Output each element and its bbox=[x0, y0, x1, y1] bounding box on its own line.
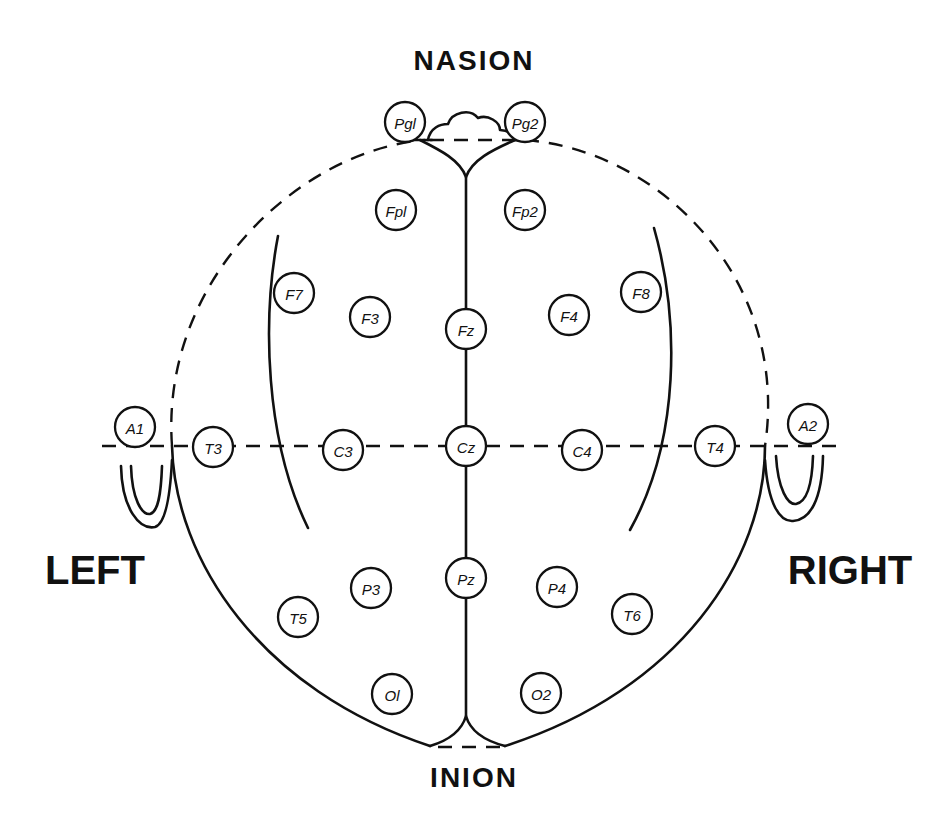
electrode-f4: F4 bbox=[549, 295, 589, 335]
inion-label: INION bbox=[430, 762, 518, 793]
electrode-label: T3 bbox=[204, 440, 222, 457]
electrode-label: C4 bbox=[572, 443, 591, 460]
electrode-f7: F7 bbox=[274, 273, 314, 313]
electrode-t4: T4 bbox=[695, 426, 735, 466]
electrode-a1: A1 bbox=[115, 407, 155, 447]
nasion-label: NASION bbox=[414, 45, 535, 76]
right-ear-inner bbox=[776, 456, 813, 504]
electrode-label: Pg2 bbox=[512, 115, 539, 132]
electrode-t3: T3 bbox=[193, 427, 233, 467]
left-ear-inner bbox=[131, 466, 162, 514]
electrode-c3: C3 bbox=[323, 430, 363, 470]
electrode-label: Fp2 bbox=[512, 203, 539, 220]
electrode-label: T4 bbox=[706, 439, 724, 456]
electrode-label: Cz bbox=[457, 439, 476, 456]
electrode-t6: T6 bbox=[612, 594, 652, 634]
electrode-label: Pz bbox=[457, 571, 475, 588]
electrode-fz: Fz bbox=[446, 309, 486, 349]
left-ear-outer bbox=[121, 460, 172, 527]
upper-head-outline bbox=[171, 140, 768, 446]
electrode-f3: F3 bbox=[350, 297, 390, 337]
electrode-label: Fpl bbox=[386, 203, 408, 220]
electrode-label: F8 bbox=[632, 285, 650, 302]
electrode-label: Fz bbox=[458, 322, 475, 339]
electrode-o1: Ol bbox=[372, 674, 412, 714]
electrode-label: P3 bbox=[362, 581, 381, 598]
inion-notch bbox=[430, 716, 505, 746]
electrode-cz: Cz bbox=[446, 426, 486, 466]
electrode-label: T5 bbox=[289, 610, 307, 627]
electrode-label: Pgl bbox=[394, 115, 416, 132]
electrode-p4: P4 bbox=[537, 567, 577, 607]
electrode-label: F4 bbox=[560, 308, 578, 325]
electrode-label: T6 bbox=[623, 607, 641, 624]
electrode-c4: C4 bbox=[562, 430, 602, 470]
electrode-fp1: Fpl bbox=[376, 190, 416, 230]
right-ear-outer bbox=[765, 456, 823, 521]
nasion-notch bbox=[420, 140, 515, 177]
electrode-label: Ol bbox=[385, 687, 401, 704]
electrode-pg2: Pg2 bbox=[505, 102, 545, 142]
electrode-p3: P3 bbox=[351, 568, 391, 608]
electrode-group: PglPg2FplFp2F7F3FzF4F8A1T3C3CzC4T4A2P3Pz… bbox=[115, 102, 828, 714]
electrode-a2: A2 bbox=[788, 404, 828, 444]
electrode-label: A1 bbox=[125, 420, 144, 437]
electrode-o2: O2 bbox=[521, 673, 561, 713]
electrode-label: P4 bbox=[548, 580, 566, 597]
electrode-label: A2 bbox=[798, 417, 818, 434]
electrode-t5: T5 bbox=[278, 597, 318, 637]
electrode-label: C3 bbox=[333, 443, 353, 460]
electrode-fp2: Fp2 bbox=[505, 190, 545, 230]
electrode-pg1: Pgl bbox=[385, 102, 425, 142]
eeg-10-20-diagram: NASION INION LEFT RIGHT PglPg2FplFp2F7F3… bbox=[0, 0, 949, 826]
right-label: RIGHT bbox=[788, 548, 912, 592]
left-label: LEFT bbox=[45, 548, 145, 592]
electrode-label: F3 bbox=[361, 310, 379, 327]
electrode-f8: F8 bbox=[621, 272, 661, 312]
electrode-label: F7 bbox=[285, 286, 303, 303]
electrode-label: O2 bbox=[531, 686, 552, 703]
electrode-pz: Pz bbox=[446, 558, 486, 598]
